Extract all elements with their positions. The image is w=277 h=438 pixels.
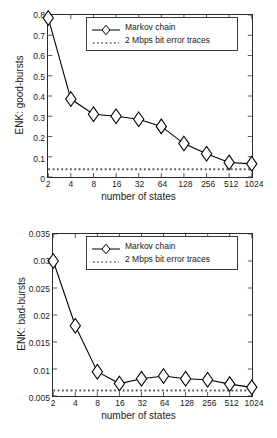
legend-label-markov-chain: Markov chain [125, 242, 176, 251]
x-axis-label-bad-bursts: number of states [0, 411, 277, 421]
legend-entry-markov-chain: Markov chain [91, 240, 232, 253]
y-axis-tick-label: 0.005 [29, 394, 50, 403]
legend-label-bit-error-traces: 2 Mbps bit error traces [125, 36, 210, 45]
y-axis-tick-label: 0.3 [33, 113, 45, 122]
y-axis-tick-label: 0.025 [29, 284, 50, 293]
dotted-line-icon [91, 254, 121, 266]
x-axis-tick-label: 512 [224, 180, 238, 189]
x-axis-tick-label: 32 [138, 399, 147, 408]
x-axis-tick-label: 16 [115, 399, 124, 408]
y-axis-tick-label: 0.015 [29, 339, 50, 348]
x-axis-tick-label: 8 [91, 180, 96, 189]
y-axis-tick-label: 0.2 [33, 134, 45, 143]
y-axis-tick-label: 0.4 [33, 93, 45, 102]
legend-label-bit-error-traces: 2 Mbps bit error traces [125, 255, 210, 264]
x-axis-tick-label: 8 [95, 399, 100, 408]
x-axis-tick-label: 64 [160, 399, 169, 408]
legend-entry-markov-chain: Markov chain [91, 21, 232, 34]
legend-label-markov-chain: Markov chain [125, 23, 176, 32]
legend-entry-bit-error-traces: 2 Mbps bit error traces [91, 34, 232, 47]
x-axis-tick-label: 4 [69, 180, 74, 189]
x-axis-tick-label: 1024 [245, 180, 264, 189]
x-axis-tick-label: 16 [112, 180, 121, 189]
x-axis-tick-label: 128 [180, 399, 194, 408]
x-axis-tick-label: 4 [73, 399, 78, 408]
x-axis-tick-label: 64 [158, 180, 167, 189]
y-axis-tick-label: 0.02 [33, 312, 50, 321]
y-axis-label-bad-bursts: ENK: bad-bursts [17, 251, 27, 377]
y-axis-tick-label: 0.03 [33, 257, 50, 266]
x-axis-label-good-bursts: number of states [0, 192, 277, 202]
legend-good-bursts: Markov chain 2 Mbps bit error traces [86, 17, 238, 51]
y-axis-tick-label: 0.7 [33, 31, 45, 40]
legend-bad-bursts: Markov chain 2 Mbps bit error traces [86, 236, 238, 270]
y-axis-tick-label: 0.1 [33, 154, 45, 163]
x-axis-tick-label: 2 [46, 180, 51, 189]
y-axis-tick-label: 0.035 [29, 230, 50, 239]
chart-bad-bursts: ENK: bad-bursts 0.0050.010.0150.020.0250… [0, 219, 277, 438]
x-axis-tick-label: 256 [202, 399, 216, 408]
diamond-marker-icon [91, 241, 121, 253]
x-axis-tick-label: 256 [201, 180, 215, 189]
x-axis-tick-label: 2 [51, 399, 56, 408]
x-axis-tick-label: 32 [135, 180, 144, 189]
x-axis-tick-label: 128 [178, 180, 192, 189]
y-axis-tick-label: 0.8 [33, 11, 45, 20]
y-axis-label-good-bursts: ENK: good-bursts [15, 30, 25, 160]
diamond-marker-icon [91, 22, 121, 34]
x-axis-tick-label: 1024 [245, 399, 264, 408]
figure-page: ENK: good-bursts 00.10.20.30.40.50.60.70… [0, 0, 277, 438]
x-axis-tick-label: 512 [225, 399, 239, 408]
legend-entry-bit-error-traces: 2 Mbps bit error traces [91, 253, 232, 266]
y-axis-tick-label: 0 [40, 175, 45, 184]
y-axis-tick-label: 0.01 [33, 366, 50, 375]
y-axis-tick-label: 0.6 [33, 52, 45, 61]
chart-good-bursts: ENK: good-bursts 00.10.20.30.40.50.60.70… [0, 0, 277, 219]
y-axis-tick-label: 0.5 [33, 72, 45, 81]
dotted-line-icon [91, 35, 121, 47]
